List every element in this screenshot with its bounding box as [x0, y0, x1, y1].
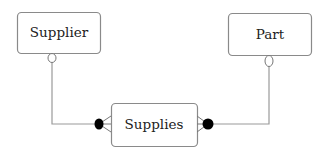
optional-circle-icon [265, 56, 273, 67]
entity-supplier[interactable]: Supplier [18, 13, 101, 54]
connector-supplier-supplies [52, 62, 99, 124]
entity-part[interactable]: Part [229, 14, 312, 56]
entity-supplier-label: Supplier [30, 24, 89, 40]
crows-foot-right-icon [197, 116, 214, 132]
entity-part-label: Part [256, 26, 285, 42]
crows-foot-left-icon [95, 116, 112, 132]
connector-part-supplies [208, 66, 269, 124]
entity-supplies-label: Supplies [125, 116, 184, 132]
er-diagram: Supplier Part Supplies [0, 0, 327, 154]
optional-circle-icon [48, 54, 56, 63]
entity-supplies[interactable]: Supplies [112, 104, 198, 147]
